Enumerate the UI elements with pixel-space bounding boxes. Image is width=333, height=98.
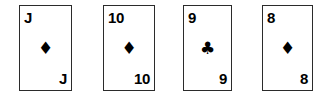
card-rank-top-left: 9 <box>188 10 196 25</box>
playing-card[interactable]: J ♦ J <box>19 5 72 91</box>
card-rank-bottom-right: 10 <box>134 71 150 86</box>
card-row: J ♦ J 10 ♦ 10 9 ♣ 9 8 ♦ 8 <box>0 0 333 98</box>
diamond-icon: ♦ <box>20 40 71 57</box>
card-rank-bottom-right: 8 <box>300 71 308 86</box>
diamond-icon: ♦ <box>104 40 154 57</box>
card-rank-top-left: J <box>24 10 32 25</box>
card-rank-top-left: 10 <box>108 10 124 25</box>
card-rank-bottom-right: 9 <box>219 71 227 86</box>
playing-card[interactable]: 10 ♦ 10 <box>103 5 155 91</box>
card-rank-bottom-right: J <box>59 71 67 86</box>
card-rank-top-left: 8 <box>267 10 275 25</box>
club-icon: ♣ <box>184 40 231 57</box>
playing-card[interactable]: 8 ♦ 8 <box>262 5 313 91</box>
diamond-icon: ♦ <box>263 40 312 57</box>
playing-card[interactable]: 9 ♣ 9 <box>183 5 232 91</box>
